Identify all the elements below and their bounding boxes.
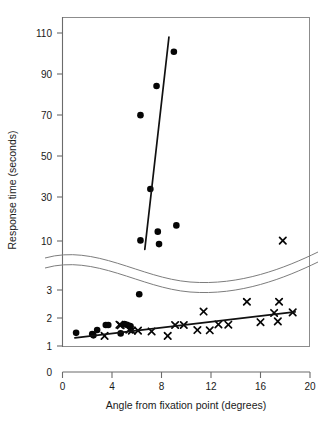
scatter-chart-figure: 110 90 70 50 30 10 3 2 1 0 4 8 12 16 — [0, 0, 329, 421]
y-tick-label-50: 50 — [41, 151, 53, 162]
data-point-circle — [171, 48, 178, 55]
x-axis-title: Angle from fixation point (degrees) — [106, 399, 267, 411]
x-tick-label-16: 16 — [255, 381, 267, 392]
x-tick-label-4: 4 — [109, 381, 115, 392]
y-tick-label-110: 110 — [36, 28, 52, 39]
y-tick-label-0: 0 — [46, 367, 52, 378]
data-point-circle — [73, 330, 80, 337]
data-point-circle — [173, 222, 180, 229]
data-point-circle — [136, 291, 143, 298]
data-point-circle — [137, 112, 144, 119]
chart-background — [0, 0, 329, 421]
data-point-circle — [156, 241, 163, 248]
data-point-circle — [105, 322, 112, 329]
x-tick-label-12: 12 — [205, 381, 217, 392]
data-point-circle — [94, 327, 101, 334]
x-tick-label-8: 8 — [159, 381, 165, 392]
x-tick-label-0: 0 — [60, 381, 66, 392]
y-tick-label-70: 70 — [41, 110, 53, 121]
data-point-circle — [154, 228, 161, 235]
y-tick-label-30: 30 — [41, 192, 53, 203]
y-tick-label-10: 10 — [41, 236, 53, 247]
y-tick-label-3: 3 — [46, 285, 52, 296]
data-point-circle — [153, 83, 160, 90]
y-tick-label-1: 1 — [46, 341, 52, 352]
data-point-circle — [137, 237, 144, 244]
y-tick-label-2: 2 — [46, 313, 52, 324]
y-axis-title: Response time (seconds) — [6, 130, 18, 249]
chart-canvas: 110 90 70 50 30 10 3 2 1 0 4 8 12 16 — [0, 0, 329, 421]
x-tick-label-20: 20 — [304, 381, 316, 392]
y-tick-label-90: 90 — [41, 69, 53, 80]
